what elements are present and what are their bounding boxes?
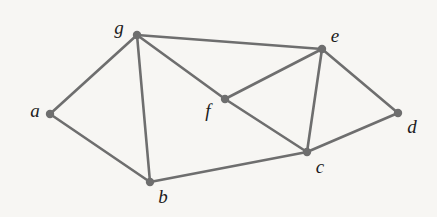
node-layer <box>46 31 402 186</box>
graph-edge-e-c <box>307 49 322 152</box>
graph-edge-g-e <box>137 35 322 49</box>
edge-layer <box>50 35 398 182</box>
graph-edge-f-e <box>225 49 322 99</box>
graph-diagram: abcdefg <box>0 0 437 217</box>
graph-node-a <box>46 110 54 118</box>
graph-node-b <box>146 178 154 186</box>
graph-node-g <box>133 31 141 39</box>
graph-node-label-b: b <box>158 187 168 206</box>
graph-node-label-g: g <box>114 18 124 37</box>
graph-edge-b-c <box>150 152 307 182</box>
graph-node-d <box>394 109 402 117</box>
graph-edge-f-c <box>225 99 307 152</box>
graph-edge-c-d <box>307 113 398 152</box>
graph-node-label-a: a <box>30 101 40 120</box>
graph-node-label-e: e <box>331 26 339 45</box>
graph-node-e <box>318 45 326 53</box>
graph-edge-a-g <box>50 35 137 114</box>
graph-canvas <box>0 0 437 217</box>
graph-edge-a-b <box>50 114 150 182</box>
graph-node-c <box>303 148 311 156</box>
graph-edge-g-b <box>137 35 150 182</box>
graph-node-f <box>221 95 229 103</box>
graph-node-label-f: f <box>205 101 210 120</box>
graph-node-label-d: d <box>407 117 417 136</box>
graph-edge-g-f <box>137 35 225 99</box>
graph-edge-e-d <box>322 49 398 113</box>
graph-node-label-c: c <box>316 157 324 176</box>
